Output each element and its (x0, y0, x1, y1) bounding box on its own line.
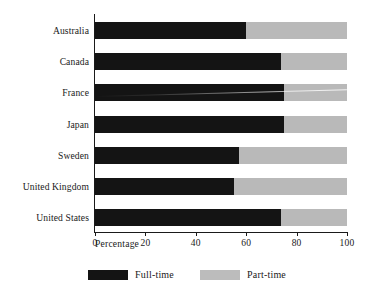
bar-row: Canada (95, 53, 347, 70)
legend-label-full-time: Full-time (135, 269, 174, 280)
x-tick-label-80: 80 (292, 238, 302, 248)
bar-segment-full-time (95, 84, 284, 101)
bar-row: United Kingdom (95, 178, 347, 195)
x-tick-0 (95, 232, 96, 236)
legend-item-full-time: Full-time (88, 269, 174, 280)
bar-segment-part-time (239, 147, 347, 164)
bar-row: Sweden (95, 147, 347, 164)
category-label-united-states: United States (36, 210, 89, 225)
bar-segment-full-time (95, 209, 281, 226)
x-tick-40 (196, 232, 197, 236)
bar-segment-full-time (95, 53, 281, 70)
x-axis-line (94, 232, 348, 233)
chart-legend: Full-time Part-time (0, 269, 374, 280)
category-label-united-kingdom: United Kingdom (23, 179, 89, 194)
category-label-sweden: Sweden (58, 148, 89, 163)
bar-segment-part-time (284, 116, 347, 133)
bar-row: Japan (95, 116, 347, 133)
part-time-swatch (200, 270, 240, 280)
bar-row: Australia (95, 22, 347, 39)
bar-segment-full-time (95, 178, 234, 195)
x-tick-label-40: 40 (191, 238, 201, 248)
legend-item-part-time: Part-time (200, 269, 286, 280)
legend-label-part-time: Part-time (247, 269, 286, 280)
bar-segment-part-time (246, 22, 347, 39)
category-label-australia: Australia (53, 23, 89, 38)
bar-segment-part-time (284, 84, 347, 101)
bar-segment-part-time (234, 178, 347, 195)
x-tick-60 (246, 232, 247, 236)
full-time-swatch (88, 270, 128, 280)
stacked-bar-chart-figure: 020406080100 AustraliaCanadaFranceJapanS… (0, 0, 374, 302)
bar-segment-full-time (95, 147, 239, 164)
x-tick-80 (297, 232, 298, 236)
bar-row: France (95, 84, 347, 101)
x-tick-20 (145, 232, 146, 236)
x-tick-label-20: 20 (140, 238, 150, 248)
bar-segment-part-time (281, 209, 347, 226)
x-axis-title: Percentage (95, 238, 139, 249)
category-label-canada: Canada (60, 54, 89, 69)
x-tick-100 (347, 232, 348, 236)
plot-area: 020406080100 AustraliaCanadaFranceJapanS… (95, 14, 347, 232)
bar-segment-full-time (95, 22, 246, 39)
bar-segment-full-time (95, 116, 284, 133)
x-tick-label-100: 100 (340, 238, 355, 248)
bar-segment-part-time (281, 53, 347, 70)
bar-row: United States (95, 209, 347, 226)
category-label-japan: Japan (67, 117, 89, 132)
category-label-france: France (62, 85, 89, 100)
x-tick-label-60: 60 (241, 238, 251, 248)
